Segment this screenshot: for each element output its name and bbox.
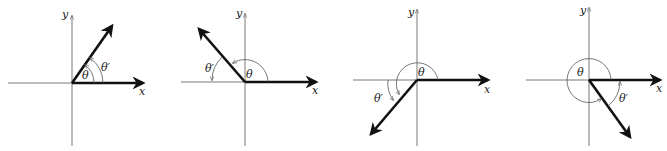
terminal-side (72, 26, 112, 83)
x-axis-label: x (139, 85, 146, 98)
theta-prime-arc (388, 80, 393, 100)
panel-quadrant-3: θ θ′ x y (353, 6, 491, 146)
panel-quadrant-2: θ θ′ x y (181, 7, 319, 146)
y-axis-label: y (235, 7, 243, 20)
panel-quadrant-1: θ θ′ x y (8, 8, 146, 146)
theta-label: θ (418, 66, 425, 79)
theta-prime-label: θ′ (374, 92, 384, 105)
diagram-svg: θ θ′ x y θ θ′ x y θ θ′ x y θ (0, 0, 667, 151)
reference-angle-diagram: θ θ′ x y θ θ′ x y θ θ′ x y θ (0, 0, 667, 151)
terminal-side (371, 80, 417, 134)
x-axis-label: x (656, 82, 663, 95)
theta-prime-label: θ′ (101, 61, 111, 74)
terminal-side (589, 80, 630, 137)
panel-quadrant-4: θ θ′ x y (526, 4, 663, 146)
y-axis-label: y (579, 4, 587, 17)
x-axis-label: x (312, 84, 319, 97)
theta-label: θ (577, 66, 584, 79)
theta-prime-label: θ′ (619, 92, 629, 105)
theta-label: θ (246, 68, 253, 81)
y-axis-label: y (407, 6, 415, 19)
theta-prime-label: θ′ (205, 62, 215, 75)
x-axis-label: x (484, 83, 491, 96)
theta-label: θ (82, 69, 89, 82)
y-axis-label: y (61, 8, 69, 21)
